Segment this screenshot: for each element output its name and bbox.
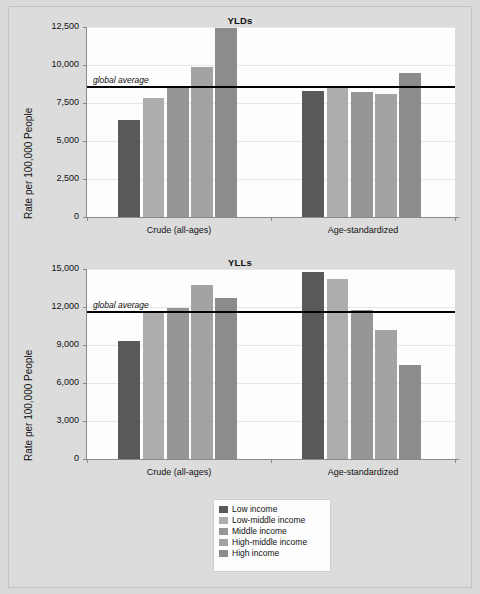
y-tick-label: 12,000 [25,301,79,311]
y-tick-label: 10,000 [25,59,79,69]
bar [375,330,397,459]
legend-swatch-icon [219,550,228,557]
legend-swatch-icon [219,528,228,535]
x-tick-label: Age-standardized [271,225,455,235]
y-axis-line [86,269,87,459]
bar [375,94,397,217]
bar [143,311,165,459]
global-average-line [87,311,455,313]
legend-item[interactable]: High-middle income [219,537,322,548]
x-tick-mark [271,459,272,463]
y-axis-line [86,27,87,217]
bar [327,87,349,217]
global-average-label: global average [93,75,149,85]
legend-swatch-icon [219,517,228,524]
y-tick-label: 2,500 [25,173,79,183]
y-tick-label: 9,000 [25,339,79,349]
x-tick-mark [455,459,456,463]
bar [351,92,373,217]
x-tick-label: Crude (all-ages) [87,225,271,235]
bar [302,272,324,459]
bar [167,86,189,217]
chart-panel-ylds: YLDs Rate per 100,000 People 02,5005,000… [9,7,471,255]
legend-item[interactable]: Low income [219,504,322,515]
y-axis-label-ylds: Rate per 100,000 People [23,108,34,219]
plot-area-ylds [87,27,455,217]
legend-swatch-icon [219,506,228,513]
bar [399,365,421,459]
y-tick-label: 6,000 [25,377,79,387]
legend-label: High income [232,548,279,559]
legend-item[interactable]: High income [219,548,322,559]
legend-label: Middle income [232,526,287,537]
gridline [87,65,455,66]
x-tick-mark [455,217,456,221]
legend-label: Low-middle income [232,515,305,526]
y-tick-label: 0 [25,453,79,463]
x-tick-mark [87,459,88,463]
legend: Low incomeLow-middle incomeMiddle income… [213,499,331,572]
x-tick-mark [87,217,88,221]
legend-item[interactable]: Middle income [219,526,322,537]
y-tick-label: 7,500 [25,97,79,107]
bar [215,28,237,217]
gridline [87,269,455,270]
bar [118,341,140,459]
legend-swatch-icon [219,539,228,546]
gridline [87,27,455,28]
bar [118,120,140,217]
bar [143,98,165,217]
y-tick-label: 0 [25,211,79,221]
global-average-label: global average [93,300,149,310]
legend-label: High-middle income [232,537,307,548]
bar [399,73,421,217]
legend-label: Low income [232,504,277,515]
y-tick-label: 15,000 [25,263,79,273]
bar [327,279,349,459]
x-tick-mark [271,217,272,221]
y-axis-label-ylls: Rate per 100,000 People [23,350,34,461]
bar [302,91,324,217]
x-tick-label: Age-standardized [271,467,455,477]
y-tick-label: 5,000 [25,135,79,145]
figure-inner: YLDs Rate per 100,000 People 02,5005,000… [8,6,472,588]
y-tick-label: 12,500 [25,21,79,31]
legend-item[interactable]: Low-middle income [219,515,322,526]
global-average-line [87,86,455,88]
chart-panel-ylls: YLLs Rate per 100,000 People 03,0006,000… [9,249,471,497]
y-tick-label: 3,000 [25,415,79,425]
bar [351,310,373,459]
x-tick-label: Crude (all-ages) [87,467,271,477]
plot-area-ylls [87,269,455,459]
bar [167,308,189,459]
bar [215,298,237,459]
figure-container: YLDs Rate per 100,000 People 02,5005,000… [0,0,480,594]
bar [191,67,213,217]
